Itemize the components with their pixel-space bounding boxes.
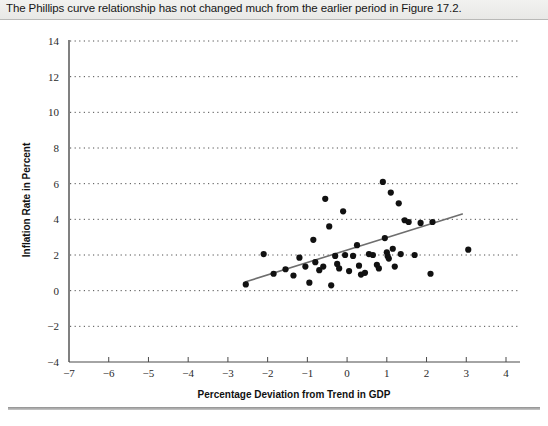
data-point	[354, 242, 360, 248]
x-tick-label: −3	[222, 367, 234, 379]
y-tick-label: 10	[48, 106, 60, 118]
x-tick-label: 2	[424, 367, 430, 379]
y-tick-label: 6	[54, 178, 60, 190]
data-point	[332, 253, 338, 259]
data-point	[270, 271, 276, 277]
x-tick-label: −4	[182, 367, 194, 379]
x-tick-label: −5	[143, 367, 155, 379]
data-point	[429, 219, 435, 225]
y-tick-label: 4	[54, 213, 60, 225]
x-tick-label: 1	[384, 367, 390, 379]
data-point	[328, 282, 334, 288]
data-point	[382, 235, 388, 241]
data-point	[261, 251, 267, 257]
data-point	[376, 265, 382, 271]
data-point	[388, 189, 394, 195]
data-point	[412, 252, 418, 258]
data-point	[362, 270, 368, 276]
y-tick-label: −4	[47, 356, 59, 368]
data-point	[322, 196, 328, 202]
data-point	[427, 271, 433, 277]
data-point	[465, 247, 471, 253]
y-tick-label: 8	[54, 142, 60, 154]
data-point	[243, 281, 249, 287]
data-point	[380, 179, 386, 185]
data-point	[282, 266, 288, 272]
data-point	[302, 263, 308, 269]
data-point	[386, 255, 392, 261]
x-tick-label: −7	[63, 367, 75, 379]
data-point	[396, 200, 402, 206]
x-tick-label: 4	[503, 367, 509, 379]
data-point	[326, 223, 332, 229]
x-tick-label: −1	[302, 367, 314, 379]
axis-ticks-group: −4−202468101214−7−6−5−4−3−2−101234	[47, 35, 509, 379]
data-point	[370, 252, 376, 258]
y-tick-label: −2	[47, 320, 59, 332]
data-point	[342, 252, 348, 258]
data-point	[320, 263, 326, 269]
gridlines-group	[70, 41, 520, 326]
data-point	[340, 208, 346, 214]
data-point	[417, 220, 423, 226]
data-point	[406, 219, 412, 225]
footer-divider	[8, 407, 540, 410]
figure-caption-text: The Phillips curve relationship has not …	[6, 2, 462, 14]
data-point	[312, 259, 318, 265]
scatter-chart: −4−202468101214−7−6−5−4−3−2−101234 Perce…	[0, 20, 548, 408]
data-point	[390, 246, 396, 252]
y-tick-label: 12	[48, 71, 59, 83]
data-point	[346, 268, 352, 274]
data-point	[306, 280, 312, 286]
y-tick-label: 14	[48, 35, 60, 47]
x-axis-title: Percentage Deviation from Trend in GDP	[198, 389, 391, 400]
data-point	[290, 272, 296, 278]
data-point	[392, 263, 398, 269]
figure-plot-area: −4−202468101214−7−6−5−4−3−2−101234 Perce…	[0, 20, 548, 408]
data-point	[310, 237, 316, 243]
data-point	[398, 251, 404, 257]
x-tick-label: 3	[464, 367, 470, 379]
y-axis-title: Inflation Rate in Percent	[21, 142, 32, 257]
y-tick-label: 2	[54, 249, 60, 261]
x-tick-label: −2	[262, 367, 274, 379]
data-point	[296, 255, 302, 261]
x-tick-label: −6	[103, 367, 115, 379]
figure-caption-bar: The Phillips curve relationship has not …	[0, 0, 548, 20]
x-tick-label: 0	[344, 367, 350, 379]
data-point	[336, 265, 342, 271]
y-tick-label: 0	[54, 285, 60, 297]
data-point	[350, 253, 356, 259]
data-point	[356, 263, 362, 269]
